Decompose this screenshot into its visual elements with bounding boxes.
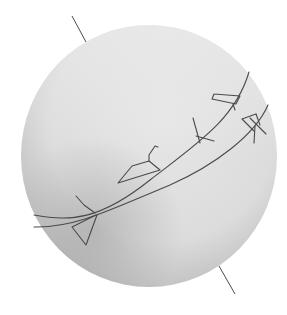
diagram-canvas xyxy=(0,0,287,315)
axis-top xyxy=(72,16,86,42)
celestial-sphere-diagram xyxy=(0,0,287,315)
axis-bottom xyxy=(219,266,235,294)
